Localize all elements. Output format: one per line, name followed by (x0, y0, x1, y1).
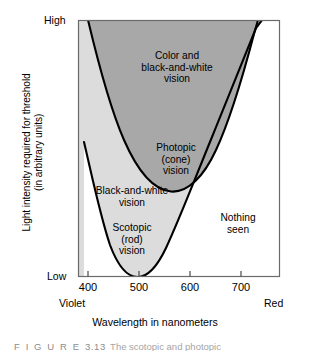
figure-caption-text: The scotopic and photopic (110, 341, 221, 351)
x-tick-label-500: 500 (119, 281, 159, 293)
region-label-line1: Black-and-white (96, 185, 168, 196)
region-label-line3: vision (119, 245, 145, 256)
region-label-photopic-cone-vision: Photopic (cone) vision (131, 142, 221, 177)
x-tick-label-400: 400 (68, 281, 108, 293)
x-axis-violet-label: Violet (59, 297, 85, 309)
region-label-black-and-white-vision: Black-and-white vision (74, 185, 190, 208)
region-label-color-and-black-and-white-vision: Color and black-and-white vision (118, 50, 236, 85)
region-label-line3: vision (164, 73, 190, 84)
figure-container: Light intensity required for threshold (… (0, 0, 310, 351)
figure-caption-number: 3.13 (85, 341, 106, 351)
region-label-line1: Scotopic (112, 222, 151, 233)
region-label-line1: Nothing (220, 212, 255, 223)
region-label-scotopic-rod-vision: Scotopic (rod) vision (92, 222, 172, 257)
region-label-line2: black-and-white (141, 62, 212, 73)
region-label-line2: (cone) (162, 154, 191, 165)
region-label-line2: vision (119, 197, 145, 208)
x-axis-title: Wavelength in nanometers (0, 316, 310, 328)
figure-caption-label: F I G U R E (14, 341, 81, 351)
region-label-line2: (rod) (121, 234, 143, 245)
x-tick-label-600: 600 (170, 281, 210, 293)
region-label-line3: vision (163, 165, 189, 176)
region-label-line1: Color and (155, 50, 199, 61)
figure-caption: F I G U R E 3.13 The scotopic and photop… (14, 341, 221, 351)
region-label-line2: seen (227, 224, 249, 235)
x-tick-label-700: 700 (221, 281, 261, 293)
region-label-line1: Photopic (156, 142, 196, 153)
region-label-nothing-seen: Nothing seen (203, 212, 273, 235)
x-axis-red-label: Red (264, 297, 283, 309)
